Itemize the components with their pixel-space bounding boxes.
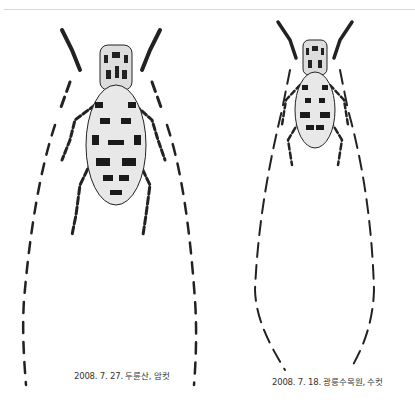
caption-male: 2008. 7. 18. 광릉수목원, 수컷 [272,375,383,387]
beetle-female-image [0,0,415,410]
caption-female: 2008. 7. 27. 두륜산, 암컷 [74,369,169,381]
